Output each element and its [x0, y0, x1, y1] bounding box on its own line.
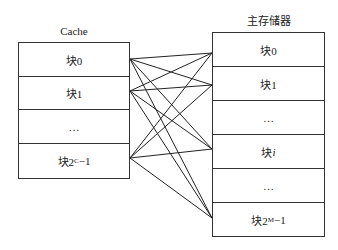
mapping-lines	[0, 0, 338, 250]
connection-lines	[130, 53, 212, 218]
